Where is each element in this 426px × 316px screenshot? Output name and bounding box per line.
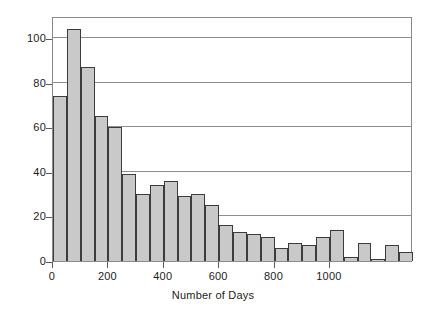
y-tick-label-20: 20 (6, 210, 46, 222)
histogram-bar (67, 29, 81, 261)
histogram-bar (344, 257, 358, 261)
histogram-bar (164, 181, 178, 261)
histogram-bar (205, 205, 219, 261)
y-tick-label-80: 80 (6, 77, 46, 89)
histogram-bar (385, 245, 399, 261)
x-tick-label-200: 200 (82, 270, 132, 282)
histogram-bar (399, 252, 413, 261)
x-tick-mark-400 (163, 262, 164, 268)
histogram-bar (302, 245, 316, 261)
histogram-bar (95, 116, 109, 261)
plot-area (52, 17, 412, 262)
histogram-bar (316, 237, 330, 262)
histogram-bar (233, 232, 247, 261)
x-tick-label-0: 0 (27, 270, 77, 282)
x-tick-mark-600 (218, 262, 219, 268)
bars-group (53, 18, 411, 261)
x-tick-mark-200 (107, 262, 108, 268)
histogram-bar (53, 96, 67, 261)
histogram-bar (247, 234, 261, 261)
y-tick-label-60: 60 (6, 121, 46, 133)
histogram-bar (275, 248, 289, 261)
x-tick-mark-1000 (329, 262, 330, 268)
histogram-bar (330, 230, 344, 261)
histogram-bar (122, 174, 136, 261)
histogram-bar (191, 194, 205, 261)
x-tick-label-600: 600 (193, 270, 243, 282)
histogram-figure: 020406080100 02004006008001000 Number of… (0, 0, 426, 316)
histogram-bar (178, 196, 192, 261)
x-tick-label-800: 800 (249, 270, 299, 282)
histogram-bar (371, 259, 385, 261)
histogram-bar (261, 237, 275, 262)
y-tick-label-100: 100 (6, 32, 46, 44)
x-tick-label-400: 400 (138, 270, 188, 282)
y-tick-label-0: 0 (6, 255, 46, 267)
histogram-bar (288, 243, 302, 261)
histogram-bar (136, 194, 150, 261)
x-tick-mark-800 (274, 262, 275, 268)
x-tick-label-1000: 1000 (304, 270, 354, 282)
x-axis-title: Number of Days (0, 289, 426, 301)
histogram-bar (219, 225, 233, 261)
histogram-bar (150, 185, 164, 261)
histogram-bar (358, 243, 372, 261)
x-tick-mark-0 (52, 262, 53, 268)
histogram-bar (81, 67, 95, 261)
y-tick-label-40: 40 (6, 166, 46, 178)
histogram-bar (108, 127, 122, 261)
